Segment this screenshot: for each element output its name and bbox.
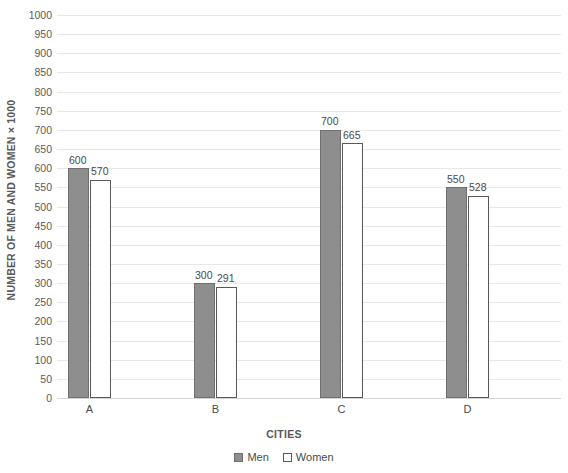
x-axis-tick-label: A bbox=[86, 402, 93, 417]
y-axis-tick-label: 100 bbox=[0, 354, 52, 365]
bar-value-label: 570 bbox=[91, 166, 109, 177]
legend-swatch-icon bbox=[234, 453, 243, 462]
bar-value-label: 665 bbox=[343, 130, 361, 141]
bar-value-label: 528 bbox=[469, 182, 487, 193]
y-axis-tick-labels: 0501001502002503003504004505005506006507… bbox=[0, 0, 52, 473]
legend-item-men[interactable]: Men bbox=[234, 452, 268, 463]
legend-label: Men bbox=[247, 452, 268, 463]
legend-item-women[interactable]: Women bbox=[283, 452, 334, 463]
y-axis-tick-label: 350 bbox=[0, 259, 52, 270]
legend-swatch-icon bbox=[283, 453, 292, 462]
legend-label: Women bbox=[296, 452, 334, 463]
bar-value-label: 300 bbox=[195, 270, 213, 281]
bar-men-d bbox=[446, 187, 467, 398]
y-axis-tick-label: 0 bbox=[0, 393, 52, 404]
x-axis-title: CITIES bbox=[0, 428, 568, 440]
bar-group: 700665 bbox=[309, 15, 435, 398]
y-axis-tick-label: 650 bbox=[0, 144, 52, 155]
bar-value-label: 291 bbox=[217, 273, 235, 284]
x-axis-tick-label: C bbox=[338, 402, 346, 417]
bar-group: 550528 bbox=[435, 15, 561, 398]
bar-men-c bbox=[320, 130, 341, 398]
bar-women-c bbox=[342, 143, 363, 398]
x-axis-tick-labels: ABCD bbox=[57, 402, 561, 422]
y-axis-tick-label: 750 bbox=[0, 106, 52, 117]
y-axis-tick-label: 150 bbox=[0, 335, 52, 346]
bar-group: 600570 bbox=[57, 15, 183, 398]
y-axis-tick-label: 850 bbox=[0, 67, 52, 78]
y-axis-tick-label: 450 bbox=[0, 220, 52, 231]
bar-women-a bbox=[90, 180, 111, 398]
bar-chart: NUMBER OF MEN AND WOMEN × 1000 050100150… bbox=[0, 0, 568, 473]
y-axis-tick-label: 550 bbox=[0, 182, 52, 193]
plot-area: 600570300291700665550528 bbox=[57, 15, 561, 398]
bar-value-label: 600 bbox=[69, 155, 87, 166]
y-axis-tick-label: 800 bbox=[0, 86, 52, 97]
bar-men-b bbox=[194, 283, 215, 398]
x-axis-tick-label: B bbox=[212, 402, 219, 417]
y-axis-tick-label: 400 bbox=[0, 240, 52, 251]
axis-baseline bbox=[57, 398, 561, 399]
bar-value-label: 700 bbox=[321, 116, 339, 127]
y-axis-tick-label: 600 bbox=[0, 163, 52, 174]
y-axis-tick-label: 700 bbox=[0, 125, 52, 136]
bar-women-d bbox=[468, 196, 489, 398]
bar-men-a bbox=[68, 168, 89, 398]
y-axis-tick-label: 250 bbox=[0, 297, 52, 308]
y-axis-tick-label: 500 bbox=[0, 201, 52, 212]
y-axis-tick-label: 50 bbox=[0, 374, 52, 385]
y-axis-tick-label: 950 bbox=[0, 29, 52, 40]
y-axis-tick-label: 200 bbox=[0, 316, 52, 327]
x-axis-tick-label: D bbox=[464, 402, 472, 417]
bar-group: 300291 bbox=[183, 15, 309, 398]
bar-women-b bbox=[216, 287, 237, 398]
y-axis-tick-label: 1000 bbox=[0, 10, 52, 21]
y-axis-tick-label: 900 bbox=[0, 48, 52, 59]
y-axis-tick-label: 300 bbox=[0, 278, 52, 289]
bar-value-label: 550 bbox=[447, 174, 465, 185]
chart-legend: MenWomen bbox=[0, 452, 568, 463]
